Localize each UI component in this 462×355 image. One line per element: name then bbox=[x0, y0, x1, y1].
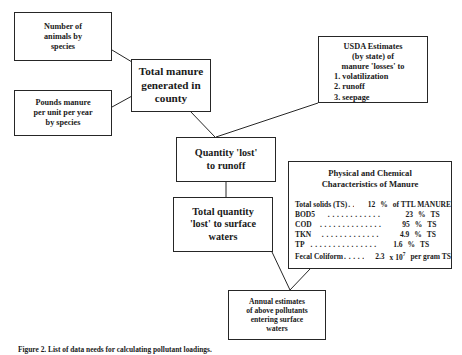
total-manure-line-3: county bbox=[135, 92, 207, 106]
connector-usda-to-quantity bbox=[216, 103, 318, 137]
chem-unit: % bbox=[409, 230, 422, 240]
annual-line-1: Annual estimates bbox=[232, 297, 322, 306]
connector-pounds-to-total bbox=[112, 96, 132, 107]
quantity-lost-line-2: to runoff bbox=[180, 160, 272, 172]
chem-dots: . . . . . . . . . . . . . . . bbox=[306, 240, 382, 250]
total-manure-line-2: generated in bbox=[135, 79, 207, 93]
chem-label: BOD5 bbox=[295, 210, 315, 220]
chem-title-line-1: Physical and Chemical bbox=[289, 168, 451, 179]
chem-label: TKN bbox=[295, 230, 311, 240]
chem-row: Total solids (TS) . . . . 12 % of TTL MA… bbox=[295, 200, 451, 210]
usda-header-2: (by state) of bbox=[319, 52, 427, 62]
pounds-line-3: by species bbox=[18, 118, 108, 128]
node-number-of-animals: Number of animals by species bbox=[14, 12, 112, 61]
chem-label: TP bbox=[295, 240, 305, 250]
chem-unit: x 107 bbox=[385, 251, 406, 263]
chem-row: Fecal Coliform . . . . . . 2.3 x 107 per… bbox=[295, 251, 451, 263]
node-manure-characteristics: Physical and Chemical Characteristics of… bbox=[288, 161, 452, 269]
chem-value: 1.6 bbox=[383, 240, 403, 250]
chem-rest: TS bbox=[422, 220, 436, 230]
connector-chem-to-annual bbox=[290, 269, 310, 290]
chem-unit: % bbox=[413, 210, 426, 220]
usda-header-3: manure 'losses' to bbox=[319, 62, 427, 72]
node-total-manure: Total manure generated in county bbox=[131, 59, 211, 112]
total-manure-line-1: Total manure bbox=[135, 65, 207, 79]
connector-total-to-quantity bbox=[190, 111, 215, 137]
chem-row: TP . . . . . . . . . . . . . . . 1.6 % T… bbox=[295, 240, 451, 250]
connector-animals-to-total bbox=[112, 50, 132, 62]
chem-value: 12 bbox=[355, 200, 375, 210]
annual-line-2: of above pollutants bbox=[232, 306, 322, 315]
chem-dots: . . . . bbox=[348, 200, 354, 210]
chem-title-line-2: Characteristics of Manure bbox=[289, 179, 451, 190]
chem-unit: % bbox=[410, 220, 423, 230]
chem-rest: TS bbox=[426, 210, 440, 220]
figure-caption: Figure 2. List of data needs for calcula… bbox=[18, 345, 212, 355]
chem-label: Fecal Coliform bbox=[295, 252, 343, 262]
usda-list-item-3: 3. seepage bbox=[334, 93, 427, 103]
annual-line-3: entering surface bbox=[232, 315, 322, 324]
usda-header-1: USDA Estimates bbox=[319, 42, 427, 52]
chem-dots: . . . . . . bbox=[344, 252, 364, 262]
usda-list-item-2: 2. runoff bbox=[334, 82, 427, 92]
chem-value: 2.3 bbox=[365, 252, 385, 262]
node-annual-estimates: Annual estimates of above pollutants ent… bbox=[228, 290, 326, 340]
chem-value: 95 bbox=[390, 220, 410, 230]
animals-line-3: species bbox=[18, 42, 108, 52]
chem-row: COD . . . . . . . . . . . . . . 95 % TS bbox=[295, 220, 451, 230]
pounds-line-1: Pounds manure bbox=[18, 98, 108, 108]
node-quantity-lost-runoff: Quantity 'lost' to runoff bbox=[176, 137, 276, 182]
chem-rest: TS bbox=[415, 240, 429, 250]
chem-unit: % bbox=[403, 240, 416, 250]
chem-rest: of TTL MANURE bbox=[388, 200, 451, 210]
chem-row: BOD5 . . . . . . . . . . . . 23 % TS bbox=[295, 210, 451, 220]
diagram-canvas: Number of animals by species Pounds manu… bbox=[0, 0, 462, 355]
node-total-quantity-surface-waters: Total quantity 'lost' to surface waters bbox=[173, 197, 273, 252]
chem-rest: TS bbox=[422, 230, 436, 240]
pounds-line-2: per unit per year bbox=[18, 108, 108, 118]
animals-line-1: Number of bbox=[18, 22, 108, 32]
chem-dots: . . . . . . . . . . . . . . bbox=[313, 220, 389, 230]
animals-line-2: animals by bbox=[18, 32, 108, 42]
annual-line-4: waters bbox=[232, 324, 322, 333]
chem-label: COD bbox=[295, 220, 312, 230]
chem-unit-text: x 10 bbox=[390, 252, 403, 261]
node-pounds-manure: Pounds manure per unit per year by speci… bbox=[14, 90, 112, 136]
chem-value: 23 bbox=[393, 210, 413, 220]
chem-value: 4.9 bbox=[389, 230, 409, 240]
chem-dots: . . . . . . . . . . . . bbox=[316, 210, 392, 220]
chem-label: Total solids (TS) bbox=[295, 200, 347, 210]
chem-row: TKN . . . . . . . . . . . . . 4.9 % TS bbox=[295, 230, 451, 240]
chem-dots: . . . . . . . . . . . . . bbox=[312, 230, 388, 240]
total-quantity-line-1: Total quantity bbox=[177, 206, 269, 218]
chem-rest: per gram TS bbox=[405, 252, 451, 262]
total-quantity-line-2: 'lost' to surface bbox=[177, 218, 269, 230]
quantity-lost-line-1: Quantity 'lost' bbox=[180, 147, 272, 159]
chem-unit: % bbox=[375, 200, 388, 210]
node-usda-estimates: USDA Estimates (by state) of manure 'los… bbox=[318, 36, 428, 103]
total-quantity-line-3: waters bbox=[177, 231, 269, 243]
usda-list-item-1: 1. volatilization bbox=[334, 72, 427, 82]
